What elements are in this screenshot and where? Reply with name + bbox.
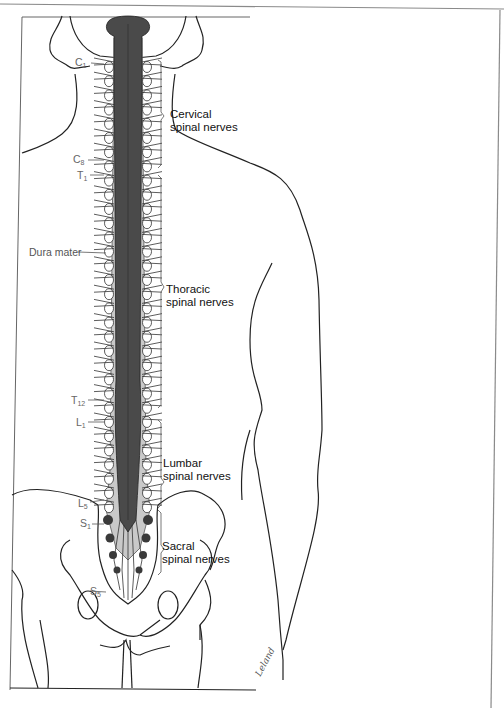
label-l5: L5: [78, 497, 88, 513]
spinal-nerves-illustration: [0, 0, 504, 708]
label-s5: S5: [90, 585, 101, 601]
label-l1: L1: [76, 416, 86, 432]
label-cervical-spinal-nerves: Cervical spinal nerves: [170, 108, 238, 134]
label-c1: C1: [75, 56, 87, 72]
label-lumbar-spinal-nerves: Lumbar spinal nerves: [163, 457, 231, 483]
label-t12: T12: [71, 394, 85, 410]
label-c8: C8: [73, 153, 85, 169]
label-t1: T1: [77, 169, 87, 185]
body-outline: [10, 16, 322, 690]
label-thoracic-spinal-nerves: Thoracic spinal nerves: [166, 283, 234, 309]
label-s1: S1: [80, 517, 91, 533]
label-sacral-spinal-nerves: Sacral spinal nerves: [162, 540, 230, 566]
label-dura-mater: Dura mater: [29, 246, 82, 259]
